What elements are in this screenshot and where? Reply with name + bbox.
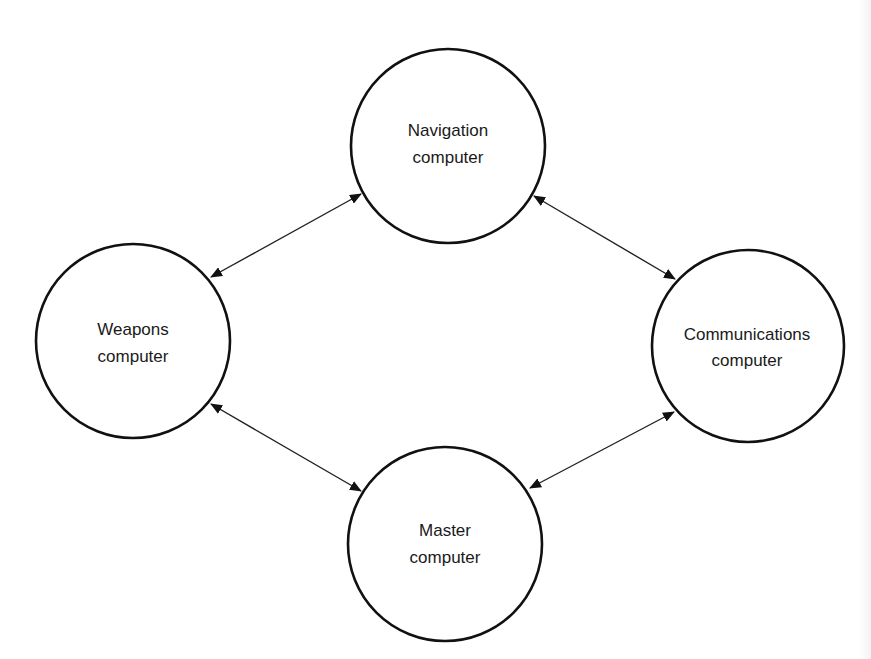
- node-circle: [36, 244, 230, 438]
- edge-navigation-communications: [534, 196, 675, 279]
- node-navigation-computer: Navigation computer: [351, 49, 545, 243]
- computer-network-diagram: Navigation computer Weapons computer Com…: [0, 0, 871, 659]
- node-master-computer: Master computer: [348, 447, 542, 641]
- node-communications-computer: Communications computer: [652, 250, 844, 442]
- edge-navigation-weapons: [211, 194, 361, 277]
- node-label-line2: computer: [98, 347, 169, 366]
- node-circle: [348, 447, 542, 641]
- node-label-line1: Master: [419, 521, 471, 540]
- edge-weapons-master: [211, 404, 361, 491]
- node-label-line1: Communications: [684, 325, 811, 344]
- edge-communications-master: [530, 412, 674, 488]
- node-label-line1: Navigation: [408, 121, 488, 140]
- node-label-line2: computer: [410, 548, 481, 567]
- node-label-line1: Weapons: [97, 320, 169, 339]
- node-label-line2: computer: [413, 148, 484, 167]
- node-circle: [351, 49, 545, 243]
- node-weapons-computer: Weapons computer: [36, 244, 230, 438]
- node-circle: [652, 250, 844, 442]
- node-label-line2: computer: [712, 351, 783, 370]
